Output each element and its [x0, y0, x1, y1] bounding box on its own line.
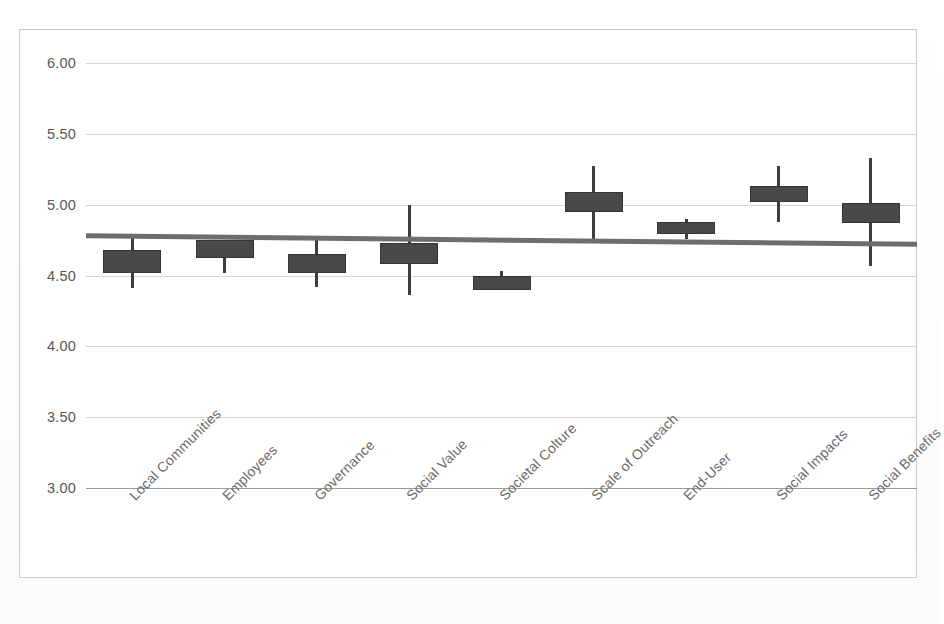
gridline-6.00: 6.00 — [86, 63, 917, 64]
gridline-5.50: 5.50 — [86, 134, 917, 135]
y-tick-label: 5.00 — [47, 197, 76, 213]
figure-caption — [0, 596, 940, 612]
box-body — [380, 243, 438, 264]
box-body — [657, 222, 715, 235]
y-tick-label: 3.50 — [47, 409, 76, 425]
gridline-4.00: 4.00 — [86, 346, 917, 347]
box-body — [842, 203, 900, 223]
box-body — [750, 186, 808, 202]
box-body — [288, 254, 346, 272]
y-tick-label: 4.50 — [47, 268, 76, 284]
box-body — [565, 192, 623, 212]
y-tick-label: 4.00 — [47, 338, 76, 354]
gridline-5.00: 5.00 — [86, 205, 917, 206]
chart-frame: 6.005.505.004.504.003.503.00 Local Commu… — [19, 29, 917, 578]
y-tick-label: 3.00 — [47, 480, 76, 496]
y-tick-label: 5.50 — [47, 126, 76, 142]
y-tick-label: 6.00 — [47, 55, 76, 71]
box-body — [473, 276, 531, 290]
box-body — [103, 250, 161, 273]
x-axis-labels: Local CommunitiesEmployeesGovernanceSoci… — [86, 492, 917, 582]
box-body — [196, 240, 254, 258]
